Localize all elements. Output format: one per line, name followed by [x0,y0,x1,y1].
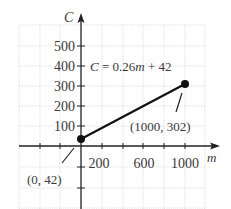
y-tick-100: 100 [54,119,75,134]
x-tick-labels: 200 600 1000 [89,156,200,171]
x-tick-200: 200 [89,156,110,171]
y-axis-title: C [64,10,74,25]
equation-label: C = 0.26m + 42 [90,59,172,74]
y-tick-500: 500 [54,39,75,54]
y-tick-300: 300 [54,79,75,94]
x-tick-1000: 1000 [171,156,199,171]
point-end [181,80,189,88]
x-tick-600: 600 [134,156,155,171]
point-start [77,135,85,143]
chart: C m 500 400 300 200 100 200 600 1000 C =… [0,0,231,209]
annotation-start: (0, 42) [27,172,62,187]
annotation-pointer-end [176,93,182,112]
y-tick-200: 200 [54,99,75,114]
x-axis-title: m [207,150,216,165]
annotation-pointer-start [62,148,74,163]
y-tick-labels: 500 400 300 200 100 [54,39,75,134]
y-tick-400: 400 [54,59,75,74]
annotation-end: (1000, 302) [130,119,191,134]
